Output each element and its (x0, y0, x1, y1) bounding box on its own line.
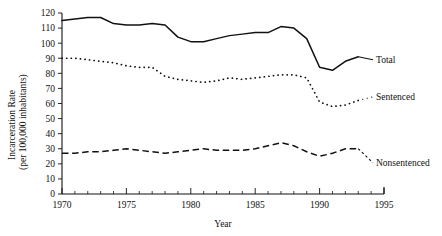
y-tick-label: 70 (46, 84, 56, 94)
series-label-total: Total (376, 55, 396, 65)
y-tick-label: 20 (46, 159, 56, 169)
y-tick-label: 120 (41, 8, 56, 18)
x-axis-title: Year (214, 219, 232, 229)
y-axis-title: Incarceration Rate (per 100,000 inhabita… (7, 74, 29, 170)
leader-line-nonsentenced (358, 149, 373, 163)
series-line-nonsentenced (62, 143, 358, 157)
y-tick-label: 110 (41, 23, 55, 33)
series-labels: Total Sentenced Nonsentenced (376, 55, 430, 168)
y-tick-label: 60 (46, 99, 56, 109)
y-tick-label: 30 (46, 144, 56, 154)
series-label-sentenced: Sentenced (376, 92, 415, 102)
x-axis-ticks (62, 188, 384, 194)
y-tick-label: 80 (46, 69, 56, 79)
chart-canvas: Incarceration Rate (per 100,000 inhabita… (0, 0, 442, 236)
x-tick-label: 1975 (117, 200, 136, 210)
y-axis-title-line2: (per 100,000 inhabitants) (18, 74, 29, 170)
y-tick-label: 10 (46, 174, 56, 184)
y-axis-ticks (58, 13, 62, 194)
x-axis-tick-labels: 197019751980198519901995 (53, 200, 394, 210)
y-axis-tick-labels: 0102030405060708090100110120 (41, 8, 56, 199)
x-tick-label: 1980 (181, 200, 200, 210)
y-tick-label: 100 (41, 39, 56, 49)
y-tick-label: 50 (46, 114, 56, 124)
axes (62, 13, 384, 194)
series-label-nonsentenced: Nonsentenced (376, 158, 430, 168)
incarceration-rate-chart: Incarceration Rate (per 100,000 inhabita… (0, 0, 442, 236)
y-tick-label: 0 (50, 189, 55, 199)
x-tick-label: 1985 (246, 200, 265, 210)
legend-leader-lines (358, 57, 373, 163)
x-tick-label: 1990 (310, 200, 329, 210)
leader-line-sentenced (358, 97, 373, 101)
series-line-sentenced (62, 58, 358, 106)
x-tick-label: 1970 (53, 200, 72, 210)
leader-line-total (358, 57, 373, 60)
y-tick-label: 90 (46, 54, 56, 64)
y-tick-label: 40 (46, 129, 56, 139)
data-series-group (62, 18, 358, 157)
x-tick-label: 1995 (375, 200, 394, 210)
y-axis-title-line1: Incarceration Rate (7, 90, 17, 160)
series-line-total (62, 18, 358, 71)
